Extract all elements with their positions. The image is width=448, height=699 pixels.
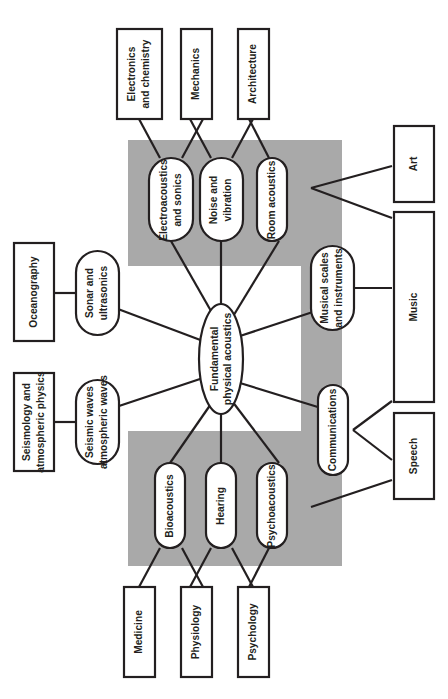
center-label-line2: physical acoustics xyxy=(222,313,233,406)
edge-center-sonar-ultrasonics xyxy=(110,306,203,341)
node-communications[interactable]: Communications xyxy=(318,385,348,475)
node-center[interactable]: Fundamental physical acoustics xyxy=(199,304,243,414)
node-bioacoustics[interactable]: Bioacoustics xyxy=(155,463,185,548)
seismic-waves-label-line2: atmospheric waves xyxy=(98,375,109,469)
node-psychoacoustics[interactable]: Psychoacoustics xyxy=(257,463,287,548)
noise-vibration-label-line2: vibration xyxy=(222,178,233,221)
room-acoustics-label-line1: Room acoustics xyxy=(266,160,277,239)
node-noise-vibration[interactable]: Noise and vibration xyxy=(200,158,243,241)
speech-label-line1: Speech xyxy=(408,438,419,474)
music-label-line1: Music xyxy=(408,292,419,321)
communications-label-line1: Communications xyxy=(327,388,338,471)
seismology-atmospheric-label-line1: Seismology and xyxy=(21,383,32,461)
node-psychology[interactable]: Psychology xyxy=(238,587,269,677)
musical-scales-label-line1: Musical scales xyxy=(319,252,330,324)
node-speech[interactable]: Speech xyxy=(394,413,434,499)
acoustics-concept-map: Fundamental physical acoustics Electroac… xyxy=(0,0,448,699)
node-seismology-atmospheric[interactable]: Seismology and atmospheric physics xyxy=(14,371,54,473)
electroacoustics-label-line1: Electroacoustics xyxy=(158,159,169,241)
oceanography-label-line1: Oceanography xyxy=(28,256,39,328)
electroacoustics-label-line2: and sonics xyxy=(172,173,183,227)
node-electronics-chemistry[interactable]: Electronics and chemistry xyxy=(117,29,162,119)
node-music[interactable]: Music xyxy=(394,212,434,402)
medicine-label-line1: Medicine xyxy=(133,610,144,654)
edge-communications-music xyxy=(353,401,392,430)
sonar-ultrasonics-label-line1: Sonar and xyxy=(84,268,95,318)
node-oceanography[interactable]: Oceanography xyxy=(14,243,54,341)
node-art[interactable]: Art xyxy=(394,126,434,202)
mechanics-label-line1: Mechanics xyxy=(190,48,201,100)
node-physiology[interactable]: Physiology xyxy=(181,587,212,677)
node-room-acoustics[interactable]: Room acoustics xyxy=(257,158,287,241)
node-mechanics[interactable]: Mechanics xyxy=(181,29,212,119)
hearing-label-line1: Hearing xyxy=(215,487,226,525)
art-label-line1: Art xyxy=(408,156,419,171)
musical-scales-label-line2: and instruments xyxy=(333,248,344,328)
node-medicine[interactable]: Medicine xyxy=(124,587,155,677)
sonar-ultrasonics-label-line2: ultrasonics xyxy=(98,265,109,320)
edge-center-seismic-waves xyxy=(110,378,203,409)
psychology-label-line1: Psychology xyxy=(247,603,258,661)
psychoacoustics-label-line1: Psychoacoustics xyxy=(266,464,277,548)
node-architecture[interactable]: Architecture xyxy=(238,29,269,119)
diagram-canvas: Fundamental physical acoustics Electroac… xyxy=(0,0,448,699)
electronics-chemistry-label-line2: and chemistry xyxy=(140,39,151,108)
noise-vibration-label-line1: Noise and xyxy=(208,176,219,225)
center-label-line1: Fundamental xyxy=(209,327,220,392)
edge-communications-speech xyxy=(353,430,392,460)
node-electroacoustics[interactable]: Electroacoustics and sonics xyxy=(149,158,193,241)
electronics-chemistry-label-line1: Electronics xyxy=(126,46,137,101)
node-sonar-ultrasonics[interactable]: Sonar and ultrasonics xyxy=(76,251,119,335)
node-seismic-waves[interactable]: Seismic waves atmospheric waves xyxy=(76,375,119,469)
seismic-waves-label-line1: Seismic waves xyxy=(84,386,95,458)
node-musical-scales[interactable]: Musical scales and instruments xyxy=(311,246,354,330)
physiology-label-line1: Physiology xyxy=(190,605,201,660)
bioacoustics-label-line1: Bioacoustics xyxy=(164,474,175,538)
seismology-atmospheric-label-line2: atmospheric physics xyxy=(35,371,46,473)
architecture-label-line1: Architecture xyxy=(247,44,258,104)
node-hearing[interactable]: Hearing xyxy=(206,463,236,548)
